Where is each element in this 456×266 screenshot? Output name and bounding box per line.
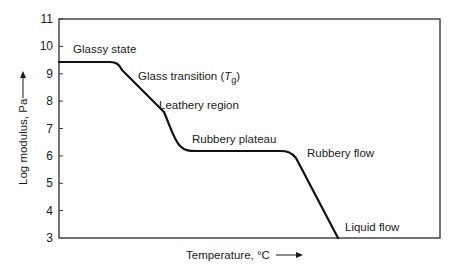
y-tick-10: 10 — [40, 39, 54, 53]
glass-transition-text: Glass transition ( — [138, 70, 224, 82]
y-tick-11: 11 — [41, 12, 54, 26]
y-axis-title: Log modulus, Pa — [17, 71, 29, 185]
y-tick-6: 6 — [46, 149, 53, 163]
y-tick-3: 3 — [46, 231, 53, 245]
annotation-rubbery-flow: Rubbery flow — [307, 147, 375, 159]
x-axis-title-text: Temperature, °C — [186, 249, 270, 261]
annotation-glass-transition: Glass transition (Tg) — [138, 70, 240, 85]
y-axis-title-text: Log modulus, Pa — [17, 98, 29, 185]
y-tick-4: 4 — [46, 204, 53, 218]
annotation-liquid-flow: Liquid flow — [345, 221, 400, 233]
annotation-glassy-state: Glassy state — [73, 43, 136, 55]
glass-transition-close: ) — [236, 70, 240, 82]
arrow-right-icon — [296, 252, 303, 258]
y-tick-7: 7 — [46, 122, 53, 136]
y-tick-9: 9 — [46, 67, 53, 81]
modulus-temperature-chart: 11 10 9 8 7 6 5 4 3 Log modulus, Pa Temp… — [0, 0, 456, 266]
y-tick-labels: 11 10 9 8 7 6 5 4 3 — [40, 12, 54, 245]
arrow-right-icon — [20, 71, 26, 78]
annotation-leathery-region: Leathery region — [159, 99, 239, 111]
modulus-curve — [59, 62, 338, 238]
x-axis-title: Temperature, °C — [186, 249, 303, 261]
y-tick-5: 5 — [46, 176, 53, 190]
y-tick-8: 8 — [46, 94, 53, 108]
annotation-rubbery-plateau: Rubbery plateau — [192, 133, 276, 145]
